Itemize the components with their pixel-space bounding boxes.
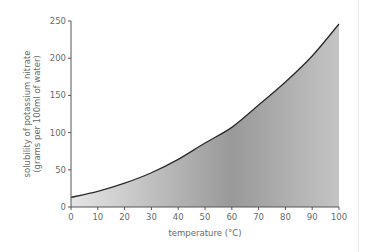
x-tick-label: 60 bbox=[226, 212, 237, 222]
x-tick-label: 100 bbox=[331, 212, 347, 222]
area-fill-shape bbox=[71, 24, 339, 207]
y-tick-label: 50 bbox=[55, 165, 66, 175]
x-tick-label: 90 bbox=[307, 212, 318, 222]
y-tick-label: 0 bbox=[61, 202, 66, 212]
x-tick-label: 0 bbox=[68, 212, 73, 222]
y-tick-label: 200 bbox=[50, 53, 66, 63]
y-axis-label: solubility of potassium nitrate (grams p… bbox=[22, 51, 42, 178]
x-axis-ticks: 0102030405060708090100 bbox=[68, 207, 347, 222]
x-axis-label: temperature (°C) bbox=[169, 228, 242, 238]
solubility-chart: 0102030405060708090100 050100150200250 t… bbox=[0, 0, 370, 252]
x-tick-label: 30 bbox=[146, 212, 157, 222]
area-fill bbox=[71, 24, 339, 207]
x-tick-label: 10 bbox=[92, 212, 103, 222]
y-tick-label: 250 bbox=[50, 16, 66, 26]
x-tick-label: 50 bbox=[200, 212, 211, 222]
x-tick-label: 40 bbox=[173, 212, 184, 222]
y-axis-label-line2: (grams per 100ml of water) bbox=[32, 55, 42, 173]
y-tick-label: 150 bbox=[50, 90, 66, 100]
x-tick-label: 70 bbox=[253, 212, 264, 222]
y-axis-label-line1: solubility of potassium nitrate bbox=[22, 51, 32, 178]
x-tick-label: 80 bbox=[280, 212, 291, 222]
y-tick-label: 100 bbox=[50, 128, 66, 138]
x-tick-label: 20 bbox=[119, 212, 130, 222]
y-axis-ticks: 050100150200250 bbox=[50, 16, 71, 212]
